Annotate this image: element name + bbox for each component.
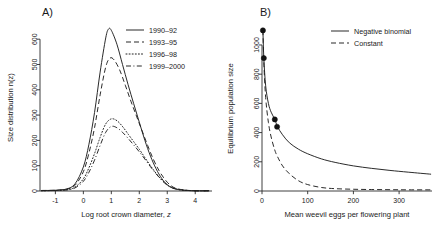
y-tick-label: 500 — [31, 59, 38, 71]
series-line-1 — [263, 30, 431, 174]
legend-label-4: 1999–2000 — [149, 62, 185, 71]
y-tick-label: 400 — [253, 127, 260, 139]
x-tick-label: 4 — [193, 197, 197, 204]
legend-label-2: Constant — [354, 39, 383, 48]
legend-label-2: 1993–95 — [149, 38, 177, 47]
x-axis-title: Mean weevil eggs per flowering plant — [285, 210, 411, 219]
y-tick-label: 100 — [31, 160, 38, 172]
x-tick-label: 3 — [165, 197, 169, 204]
series-line-1 — [41, 28, 209, 191]
y-axis-title: Size distribution n(z) — [6, 73, 15, 142]
series-line-2 — [263, 30, 431, 189]
legend-label-3: 1996–98 — [149, 50, 177, 59]
data-point-marker — [272, 117, 277, 122]
x-tick-label: 100 — [302, 197, 314, 204]
panel-b-plot: B)020040060080010000100200300Mean weevil… — [218, 0, 436, 239]
x-axis-title-italic: z — [166, 210, 171, 219]
series-line-2 — [41, 58, 209, 191]
figure-container: A)0100200300400500600-101234Log root cro… — [0, 0, 436, 239]
y-tick-label: 400 — [31, 84, 38, 96]
x-tick-label: 2 — [137, 197, 141, 204]
y-axis-title: Equilibrium population size — [226, 63, 235, 153]
x-axis-title: Log root crown diameter, z — [81, 210, 171, 219]
y-tick-label: 800 — [253, 68, 260, 80]
panel-a-plot: A)0100200300400500600-101234Log root cro… — [0, 0, 218, 239]
legend-label-1: Negative binomial — [354, 27, 412, 36]
panel-label: A) — [42, 6, 53, 18]
x-tick-label: 1 — [109, 197, 113, 204]
x-tick-label: 300 — [393, 197, 405, 204]
y-tick-label: 300 — [31, 109, 38, 121]
y-tick-label: 1000 — [253, 37, 260, 53]
panel-a: A)0100200300400500600-101234Log root cro… — [0, 0, 218, 239]
x-tick-label: 200 — [348, 197, 360, 204]
y-tick-label: 200 — [31, 134, 38, 146]
y-tick-label: 600 — [31, 33, 38, 45]
x-tick-label: 0 — [260, 197, 264, 204]
data-point-marker — [260, 28, 265, 33]
series-line-3 — [41, 119, 209, 191]
data-point-marker — [274, 124, 279, 129]
panel-label: B) — [260, 6, 271, 18]
panel-b: B)020040060080010000100200300Mean weevil… — [218, 0, 436, 239]
x-tick-label: -1 — [52, 197, 58, 204]
y-tick-label: 200 — [253, 156, 260, 168]
legend-label-1: 1990–92 — [149, 26, 177, 35]
y-tick-label: 600 — [253, 97, 260, 109]
y-tick-label: 0 — [31, 189, 38, 193]
x-tick-label: 0 — [81, 197, 85, 204]
data-point-marker — [261, 56, 266, 61]
series-line-4 — [41, 126, 209, 191]
y-tick-label: 0 — [253, 189, 260, 193]
